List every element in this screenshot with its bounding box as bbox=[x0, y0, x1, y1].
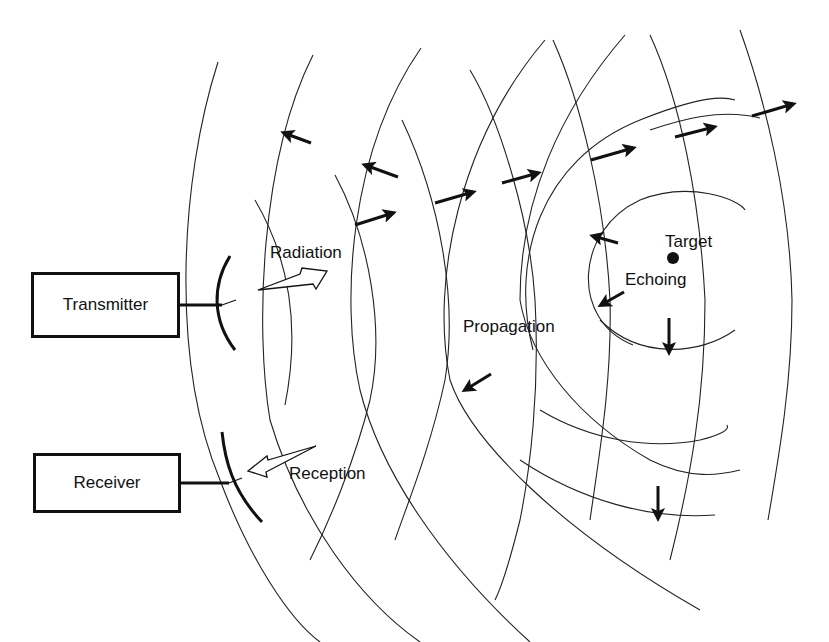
target-dot bbox=[667, 252, 679, 264]
receiver-label: Receiver bbox=[73, 473, 140, 493]
echoing-label: Echoing bbox=[625, 271, 686, 288]
target-label: Target bbox=[665, 233, 712, 250]
radiation-arrow bbox=[258, 268, 327, 290]
reception-label: Reception bbox=[289, 465, 366, 482]
receiver-block: Receiver bbox=[33, 453, 181, 513]
propagation-label: Propagation bbox=[463, 318, 555, 335]
outgoing-wavefronts bbox=[120, 0, 700, 642]
propagation-arcs bbox=[255, 30, 792, 600]
transmitter-label: Transmitter bbox=[63, 295, 148, 315]
receiver-antenna bbox=[180, 432, 262, 522]
radiation-label: Radiation bbox=[270, 244, 342, 261]
transmitter-block: Transmitter bbox=[31, 272, 180, 338]
echo-wavefronts bbox=[520, 98, 745, 516]
